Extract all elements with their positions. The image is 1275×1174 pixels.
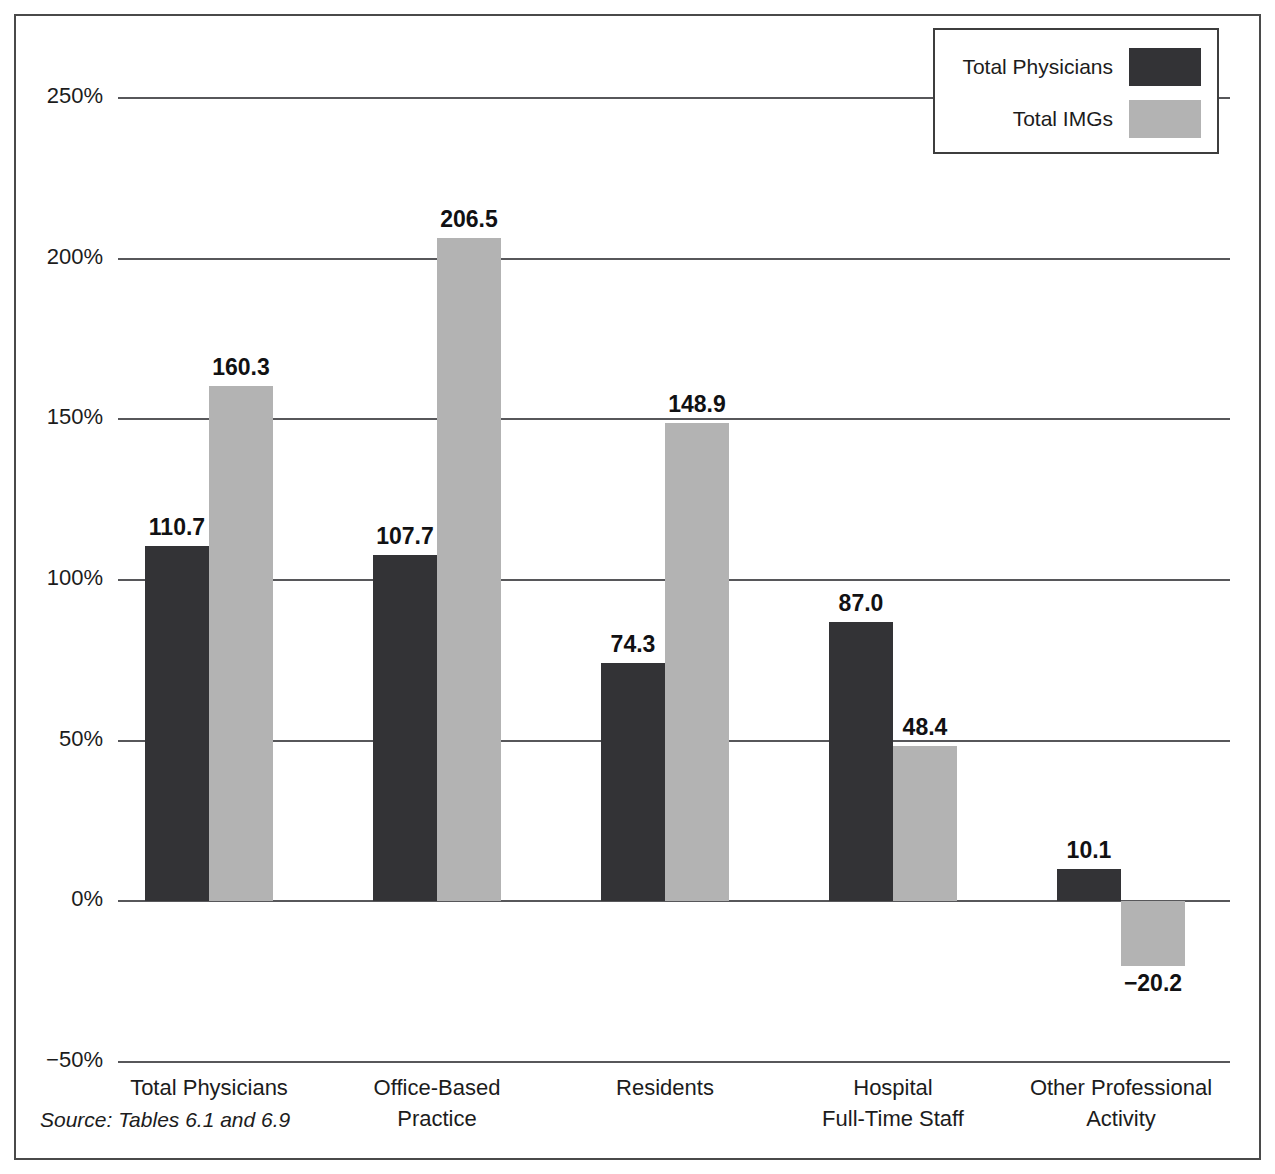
bar [1121, 901, 1185, 966]
bar-value-label: 87.0 [794, 590, 928, 617]
y-axis-tick-label: 0% [0, 886, 103, 912]
bar [1057, 869, 1121, 901]
x-axis-category-label: Other Professional Activity [1006, 1072, 1236, 1134]
bar-value-label: 10.1 [1022, 837, 1156, 864]
legend-entry-total-imgs: Total IMGs [935, 96, 1217, 142]
gridline-150 [118, 418, 1230, 420]
bar [893, 746, 957, 902]
y-axis-tick-label: 250% [0, 83, 103, 109]
gridline-neg50 [118, 1061, 1230, 1063]
bar-value-label: 160.3 [174, 354, 308, 381]
legend-swatch-total-physicians [1129, 48, 1201, 86]
source-note: Source: Tables 6.1 and 6.9 [40, 1108, 290, 1132]
bar [145, 546, 209, 902]
figure-root: 250%200%150%100%50%0%−50%110.7160.3Total… [0, 0, 1275, 1174]
bar [665, 423, 729, 901]
legend-label-total-imgs: Total IMGs [1013, 107, 1113, 131]
y-axis-tick-label: 200% [0, 244, 103, 270]
bar-value-label: 148.9 [630, 391, 764, 418]
bar-value-label: 48.4 [858, 714, 992, 741]
x-axis-category-label: Total Physicians [94, 1072, 324, 1103]
y-axis-tick-label: −50% [0, 1047, 103, 1073]
x-axis-category-label: Hospital Full-Time Staff [778, 1072, 1008, 1134]
bar [209, 386, 273, 901]
bar-value-label: 206.5 [402, 206, 536, 233]
bar [829, 622, 893, 902]
bar-value-label: −20.2 [1086, 970, 1220, 997]
legend-entry-total-physicians: Total Physicians [935, 44, 1217, 90]
x-axis-category-label: Residents [550, 1072, 780, 1103]
bar [437, 238, 501, 902]
x-axis-category-label: Office-Based Practice [322, 1072, 552, 1134]
chart-legend: Total Physicians Total IMGs [933, 28, 1219, 154]
legend-label-total-physicians: Total Physicians [962, 55, 1113, 79]
y-axis-tick-label: 50% [0, 726, 103, 752]
y-axis-tick-label: 150% [0, 404, 103, 430]
plot-area: 250%200%150%100%50%0%−50%110.7160.3Total… [0, 0, 1275, 1174]
gridline-200 [118, 258, 1230, 260]
legend-swatch-total-imgs [1129, 100, 1201, 138]
bar [373, 555, 437, 901]
y-axis-tick-label: 100% [0, 565, 103, 591]
bar [601, 663, 665, 902]
